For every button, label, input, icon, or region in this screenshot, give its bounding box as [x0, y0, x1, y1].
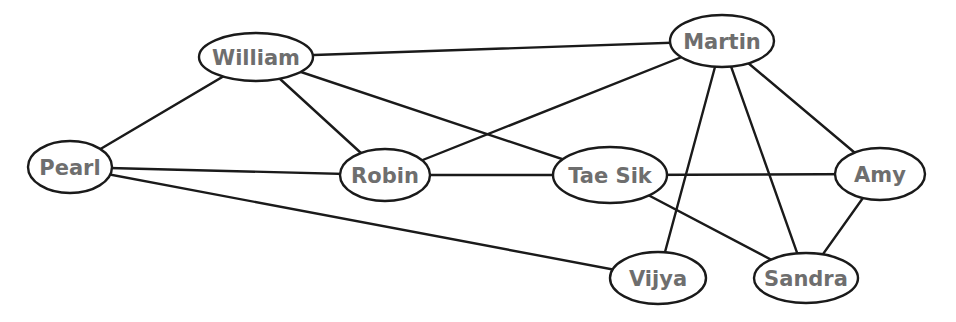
- node-robin: Robin: [340, 149, 430, 201]
- edge-william-taesik: [256, 57, 610, 175]
- edge-william-martin: [256, 41, 722, 57]
- node-label: Martin: [683, 30, 761, 54]
- node-label: Vijya: [629, 267, 687, 291]
- node-taesik: Tae Sik: [553, 147, 667, 203]
- node-amy: Amy: [835, 148, 925, 200]
- node-vijya: Vijya: [610, 252, 706, 304]
- node-william: William: [199, 33, 313, 81]
- node-label: Sandra: [764, 267, 848, 291]
- node-label: Pearl: [39, 156, 100, 180]
- edge-martin-robin: [385, 41, 722, 175]
- node-label: Amy: [854, 163, 906, 187]
- social-network-graph: WilliamMartinPearlRobinTae SikAmyVijyaSa…: [0, 0, 956, 322]
- edge-pearl-robin: [70, 167, 385, 175]
- edges-layer: [70, 41, 880, 278]
- node-label: Tae Sik: [568, 164, 653, 188]
- node-pearl: Pearl: [28, 141, 112, 193]
- node-label: William: [212, 46, 300, 70]
- node-sandra: Sandra: [754, 253, 858, 303]
- nodes-layer: WilliamMartinPearlRobinTae SikAmyVijyaSa…: [28, 15, 925, 304]
- edge-martin-vijya: [658, 41, 722, 278]
- node-martin: Martin: [670, 15, 774, 67]
- node-label: Robin: [351, 164, 419, 188]
